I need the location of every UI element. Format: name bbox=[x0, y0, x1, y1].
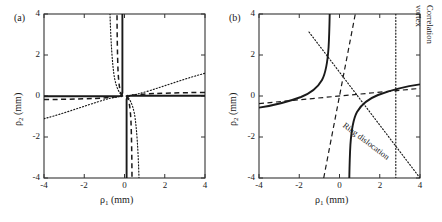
y-axis-subscript-b: 2 bbox=[232, 118, 240, 122]
x-tick-a-4: 4 bbox=[195, 180, 215, 190]
annotation-correlation-vortex-line1: Correlation bbox=[425, 5, 435, 44]
panel-a: (a) -4 -2 0 2 4 4 2 0 -2 -4 ρ1 (mm) ρ2 (… bbox=[0, 0, 221, 222]
y-axis-title-b: ρ2 (mm) bbox=[227, 93, 240, 126]
y-tick-b-4: -4 bbox=[237, 172, 255, 182]
x-axis-unit-a: (mm) bbox=[111, 194, 133, 205]
x-axis-title-b: ρ1 (mm) bbox=[315, 194, 348, 207]
x-tick-a-1: -2 bbox=[74, 180, 94, 190]
x-tick-b-2: 0 bbox=[330, 180, 350, 190]
ring-dislocation-line-b bbox=[309, 32, 420, 178]
y-tick-b-3: -2 bbox=[237, 131, 255, 141]
y-tick-a-3: -2 bbox=[22, 131, 40, 141]
y-tick-a-1: 2 bbox=[22, 49, 40, 59]
x-axis-title-a: ρ1 (mm) bbox=[100, 194, 133, 207]
x-axis-subscript-a: 1 bbox=[105, 199, 109, 207]
hyperbola-branch-upper-b bbox=[259, 14, 330, 108]
y-tick-a-0: 4 bbox=[22, 8, 40, 18]
x-tick-b-1: -2 bbox=[289, 180, 309, 190]
y-tick-a-4: -4 bbox=[22, 172, 40, 182]
panel-b: (b) -4 -2 0 2 4 4 2 0 -2 -4 ρ1 (mm) ρ2 (… bbox=[221, 0, 442, 222]
y-tick-b-0: 4 bbox=[237, 8, 255, 18]
x-axis-subscript-b: 1 bbox=[320, 199, 324, 207]
x-tick-b-3: 2 bbox=[370, 180, 390, 190]
x-tick-a-2: 0 bbox=[115, 180, 135, 190]
figure-container: (a) -4 -2 0 2 4 4 2 0 -2 -4 ρ1 (mm) ρ2 (… bbox=[0, 0, 442, 222]
y-tick-b-1: 2 bbox=[237, 49, 255, 59]
y-axis-symbol-b: ρ bbox=[227, 121, 238, 126]
y-axis-title-a: ρ2 (mm) bbox=[12, 93, 25, 126]
x-tick-a-3: 2 bbox=[155, 180, 175, 190]
annotation-correlation-vortex-line2: vortex bbox=[414, 5, 424, 27]
y-axis-subscript-a: 2 bbox=[17, 118, 25, 122]
y-axis-unit-b: (mm) bbox=[227, 93, 238, 115]
y-axis-unit-a: (mm) bbox=[12, 93, 23, 115]
x-axis-unit-b: (mm) bbox=[326, 194, 348, 205]
x-tick-b-4: 4 bbox=[410, 180, 430, 190]
y-axis-symbol-a: ρ bbox=[12, 121, 23, 126]
